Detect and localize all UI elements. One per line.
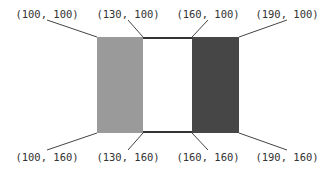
leader-line-bl1 xyxy=(47,133,97,150)
coordinate-label-tl4: (190, 100) xyxy=(255,8,318,20)
leader-line-bl2 xyxy=(128,133,143,150)
coordinate-label-tl3: (160, 100) xyxy=(176,8,239,20)
dark-rect xyxy=(192,37,239,133)
coordinate-label-bl1: (100, 160) xyxy=(15,151,78,163)
coordinate-label-tl2: (130, 100) xyxy=(96,8,159,20)
leader-line-tl3 xyxy=(192,20,208,37)
coordinate-label-bl2: (130, 160) xyxy=(96,151,159,163)
leader-line-bl3 xyxy=(192,133,208,150)
leader-line-tl1 xyxy=(47,20,97,37)
coordinate-label-bl3: (160, 160) xyxy=(176,151,239,163)
coordinate-diagram: (100, 100)(130, 100)(160, 100)(190, 100)… xyxy=(0,0,330,172)
leader-line-bl4 xyxy=(239,133,287,150)
white-rect xyxy=(143,37,192,133)
gray-rect xyxy=(97,37,143,133)
leader-line-tl4 xyxy=(239,20,287,37)
coordinate-label-bl4: (190, 160) xyxy=(255,151,318,163)
coordinate-label-tl1: (100, 100) xyxy=(15,8,78,20)
leader-line-tl2 xyxy=(128,20,143,37)
